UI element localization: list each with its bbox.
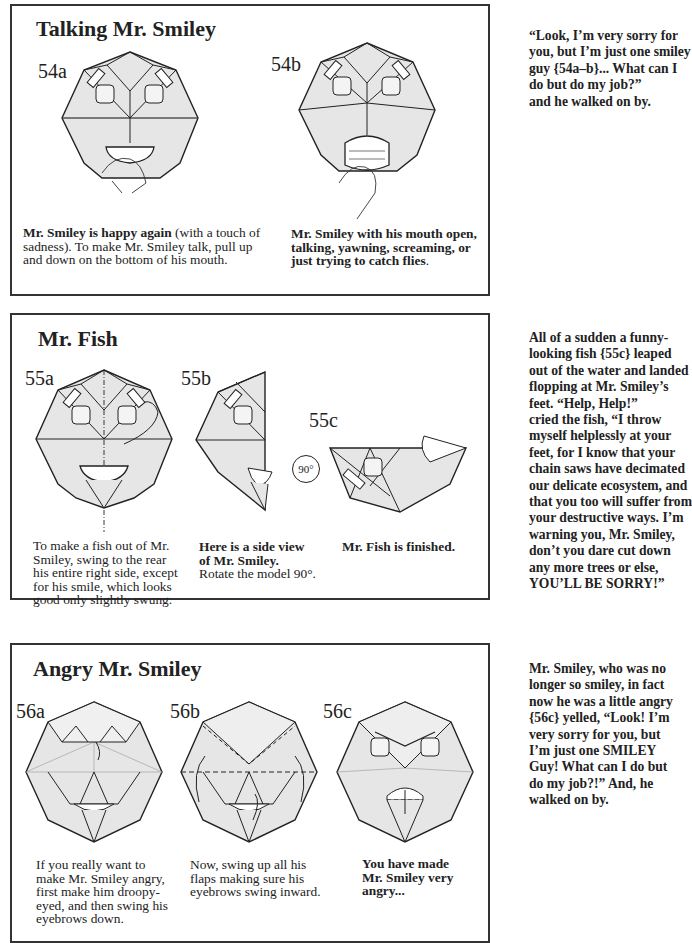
diagram-55c-fish bbox=[330, 436, 470, 526]
diagram-56a-face bbox=[26, 702, 166, 844]
caption-55c: Mr. Fish is finished. bbox=[342, 540, 482, 554]
caption-56a: If you really want to make Mr. Smiley an… bbox=[36, 858, 186, 926]
story-text-2: All of a sudden a funny- looking fish {5… bbox=[529, 330, 679, 593]
section-title: Mr. Fish bbox=[38, 326, 118, 352]
step-label: 55c bbox=[309, 409, 338, 432]
story-text-1: “Look, I’m very sorry for you, but I’m j… bbox=[529, 28, 679, 110]
section-title: Angry Mr. Smiley bbox=[33, 656, 201, 682]
diagram-56b-face bbox=[181, 702, 321, 844]
story-text-3: Mr. Smiley, who was no longer so smiley,… bbox=[529, 661, 679, 809]
caption-55a: To make a fish out of Mr. Smiley, swing … bbox=[33, 539, 203, 607]
caption-54b: Mr. Smiley with his mouth open, talking,… bbox=[291, 227, 491, 268]
diagram-54a-face bbox=[62, 43, 202, 193]
diagram-55b-side-view bbox=[196, 372, 276, 512]
section-title: Talking Mr. Smiley bbox=[36, 16, 216, 42]
diagram-56c-face bbox=[337, 702, 477, 844]
caption-56c: You have made Mr. Smiley very angry... bbox=[362, 857, 482, 898]
diagram-54b-face bbox=[299, 43, 439, 223]
rotate-90-icon: 90° bbox=[292, 455, 320, 483]
diagram-55a-face bbox=[36, 370, 176, 540]
step-label: 54b bbox=[271, 53, 301, 76]
caption-56b: Now, swing up all his flaps making sure … bbox=[190, 858, 340, 899]
caption-54a: Mr. Smiley is happy again (with a touch … bbox=[23, 226, 263, 267]
caption-55b: Here is a side view of Mr. Smiley. Rotat… bbox=[199, 540, 319, 581]
